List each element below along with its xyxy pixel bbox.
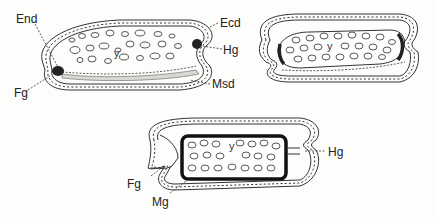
mesoderm-band <box>62 70 199 81</box>
label-foregut: Fg <box>14 86 28 100</box>
embryo-diagram: y End Ecd Hg Fg Msd <box>0 0 437 217</box>
yolk-label: y <box>229 140 235 152</box>
yolk-label: y <box>327 40 333 52</box>
panel-stage-2: y <box>259 14 418 82</box>
hindgut-notch <box>286 148 300 154</box>
label-mesoderm: Msd <box>212 77 235 91</box>
label-endoderm: End <box>16 12 37 26</box>
label-foregut: Fg <box>127 177 141 191</box>
endoderm-posterior <box>192 39 202 49</box>
endoderm-anterior <box>52 66 64 76</box>
yolk-granules <box>69 30 182 64</box>
label-ectoderm: Ecd <box>220 16 241 30</box>
label-hindgut: Hg <box>223 43 238 57</box>
panel-stage-1: y End Ecd Hg Fg Msd <box>14 12 241 100</box>
yolk-label: y <box>114 47 120 59</box>
label-midgut: Mg <box>152 195 169 209</box>
panel-stage-3: y Hg Fg Mg <box>127 118 343 209</box>
label-hindgut: Hg <box>328 145 343 159</box>
